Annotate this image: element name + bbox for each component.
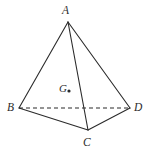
- edge-cd: [88, 108, 130, 130]
- centroid-point-g: [67, 89, 70, 92]
- edge-bc: [19, 108, 88, 130]
- vertex-label-d: D: [134, 101, 142, 113]
- tetrahedron-figure: A B C D G: [0, 0, 150, 157]
- vertex-label-a: A: [62, 4, 69, 16]
- edge-ab: [19, 22, 68, 108]
- centroid-label-g: G: [59, 82, 67, 94]
- tetrahedron-drawing: [0, 0, 150, 157]
- edge-ac: [68, 22, 88, 130]
- edge-ad: [68, 22, 130, 108]
- vertex-label-b: B: [7, 101, 14, 113]
- vertex-label-c: C: [83, 136, 91, 148]
